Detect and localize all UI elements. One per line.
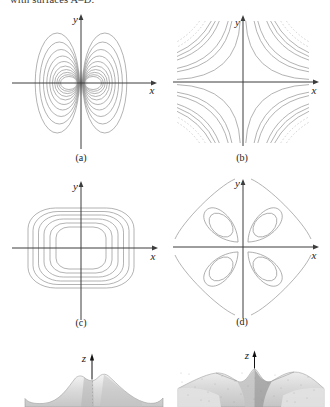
surface-plot-right: z — [175, 348, 327, 407]
surface-silhouette — [25, 374, 163, 407]
y-axis-label: y — [234, 177, 240, 189]
y-axis-arrow-icon — [241, 15, 246, 21]
x-axis-label: x — [149, 84, 155, 96]
figure: with surfaces A–D. x y (a) x y (b) — [0, 0, 330, 407]
y-axis-arrow-icon — [79, 14, 84, 20]
partial-text-line: with surfaces A–D. — [10, 0, 94, 6]
z-axis-label: z — [81, 352, 87, 364]
contour-panel-d: x y — [161, 172, 326, 322]
caption-b: (b) — [222, 152, 262, 163]
z-axis-label: z — [244, 349, 250, 361]
contour-curves-d — [240, 179, 311, 250]
caption-d: (d) — [222, 316, 262, 327]
x-axis-label: x — [311, 84, 317, 96]
caption-c: (c) — [61, 317, 101, 328]
contour-curves-b — [246, 21, 309, 79]
contour-panel-b: x y — [161, 7, 326, 157]
y-axis-label: y — [72, 180, 78, 192]
x-axis-label: x — [150, 250, 156, 262]
y-axis-arrow-icon — [79, 181, 84, 187]
z-axis-arrow-icon — [90, 354, 94, 361]
y-axis-arrow-icon — [241, 179, 246, 185]
z-axis-arrow-icon — [252, 351, 256, 358]
contour-panel-a: x y — [0, 8, 164, 158]
y-axis-label: y — [234, 16, 240, 28]
x-axis-label: x — [311, 249, 317, 261]
y-axis-label: y — [72, 13, 78, 25]
flank-shading — [100, 375, 142, 407]
caption-a: (a) — [61, 152, 101, 163]
partial-text: with surfaces A–D. — [10, 0, 94, 5]
surface-plot-left: z — [18, 350, 170, 407]
contour-panel-c: x y — [0, 173, 164, 323]
